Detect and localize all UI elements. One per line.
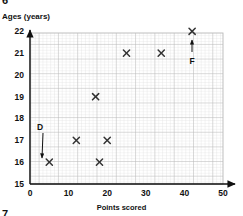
- x-tick-label: 50: [218, 188, 228, 198]
- plot-canvas: 15 16 17 18 19 20 21 22 0 10 20 30 40 50…: [0, 0, 243, 216]
- annotation-label-f: F: [189, 56, 194, 66]
- scatter-plot-figure: 6 Ages (years): [0, 0, 243, 216]
- y-tick-label: 17: [15, 135, 25, 145]
- x-tick-label: 30: [141, 188, 151, 198]
- y-tick-label: 15: [15, 179, 25, 189]
- y-tick-label: 19: [15, 92, 25, 102]
- y-tick-label: 20: [15, 70, 25, 80]
- x-tick-label: 0: [28, 188, 33, 198]
- x-tick-label: 20: [102, 188, 112, 198]
- x-axis-title: Points scored: [0, 203, 243, 212]
- x-tick-label: 40: [180, 188, 190, 198]
- annotation-label-d: D: [37, 122, 43, 132]
- exercise-number-bottom: 7: [2, 209, 8, 216]
- y-tick-label: 18: [15, 113, 25, 123]
- y-tick-label: 22: [15, 26, 25, 36]
- y-tick-label: 21: [15, 48, 25, 58]
- x-tick-label: 10: [64, 188, 74, 198]
- x-tick-labels: 0 10 20 30 40 50: [28, 188, 228, 198]
- y-tick-labels: 15 16 17 18 19 20 21 22: [15, 26, 25, 189]
- y-tick-label: 16: [15, 157, 25, 167]
